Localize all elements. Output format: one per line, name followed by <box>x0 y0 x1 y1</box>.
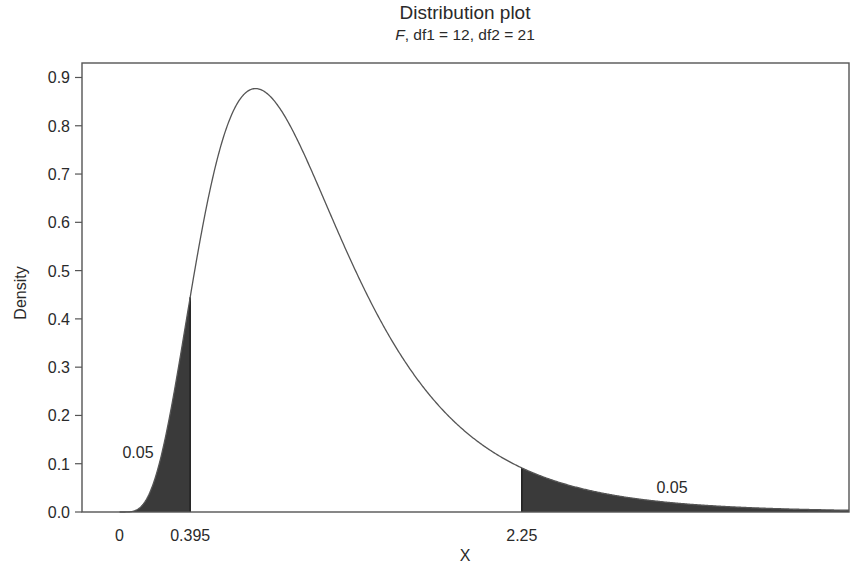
y-axis-ticks: 0.00.10.20.30.40.50.60.70.80.9 <box>48 69 82 521</box>
y-tick-label: 0.6 <box>48 214 70 231</box>
y-tick-label: 0.9 <box>48 69 70 86</box>
x-axis-tick-labels: 00.3952.25 <box>115 527 537 544</box>
density-curve <box>120 89 849 512</box>
area-annotations: 0.050.05 <box>122 444 687 496</box>
shaded-tail-regions <box>120 297 849 512</box>
distribution-plot: 0.00.10.20.30.40.50.60.70.80.9 00.3952.2… <box>0 0 865 577</box>
y-axis-label: Density <box>12 266 29 319</box>
x-tick-label: 0.395 <box>170 527 210 544</box>
x-tick-label: 0 <box>115 527 124 544</box>
y-tick-label: 0.8 <box>48 118 70 135</box>
area-label: 0.05 <box>122 444 153 461</box>
y-tick-label: 0.1 <box>48 456 70 473</box>
y-tick-label: 0.3 <box>48 359 70 376</box>
x-tick-label: 2.25 <box>506 527 537 544</box>
y-tick-label: 0.4 <box>48 311 70 328</box>
area-label: 0.05 <box>656 479 687 496</box>
y-tick-label: 0.2 <box>48 407 70 424</box>
y-tick-label: 0.7 <box>48 166 70 183</box>
y-tick-label: 0.5 <box>48 263 70 280</box>
y-tick-label: 0.0 <box>48 504 70 521</box>
x-axis-label: X <box>460 547 471 564</box>
plot-frame <box>82 63 849 512</box>
